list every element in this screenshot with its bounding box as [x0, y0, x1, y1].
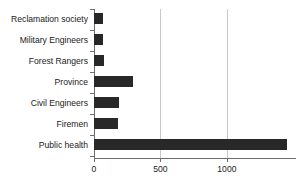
- bar-chart-figure: Reclamation society Military Engineers F…: [0, 0, 297, 187]
- x-tick-1000: [227, 158, 228, 162]
- y-axis-labels: Reclamation society Military Engineers F…: [0, 0, 88, 187]
- y-label-forest-rangers: Forest Rangers: [0, 57, 88, 66]
- y-tick-2: [90, 51, 94, 52]
- y-tick-6: [90, 135, 94, 136]
- x-tick-0: [94, 158, 95, 162]
- y-label-military-engineers: Military Engineers: [0, 36, 88, 45]
- x-tick-500: [160, 158, 161, 162]
- y-tick-3: [90, 72, 94, 73]
- bar-forest-rangers: [94, 55, 104, 66]
- plot-area: [94, 9, 296, 158]
- bar-civil-engineers: [94, 97, 119, 108]
- bar-public-health: [94, 139, 287, 150]
- y-tick-1: [90, 30, 94, 31]
- y-tick-5: [90, 114, 94, 115]
- x-axis-line: [94, 158, 296, 159]
- y-tick-7: [90, 156, 94, 157]
- bar-province: [94, 76, 133, 87]
- bar-firemen: [94, 118, 118, 129]
- y-label-reclamation-society: Reclamation society: [0, 15, 88, 24]
- x-label-1000: 1000: [217, 164, 236, 174]
- gridline-500: [160, 9, 161, 158]
- x-label-500: 500: [153, 164, 167, 174]
- bar-military-engineers: [94, 34, 103, 45]
- y-tick-0: [90, 9, 94, 10]
- y-label-public-health: Public health: [0, 141, 88, 150]
- y-label-firemen: Firemen: [0, 120, 88, 129]
- x-label-0: 0: [92, 164, 97, 174]
- gridline-1000: [227, 9, 228, 158]
- y-label-civil-engineers: Civil Engineers: [0, 99, 88, 108]
- bar-reclamation-society: [94, 13, 103, 24]
- y-tick-4: [90, 93, 94, 94]
- y-label-province: Province: [0, 78, 88, 87]
